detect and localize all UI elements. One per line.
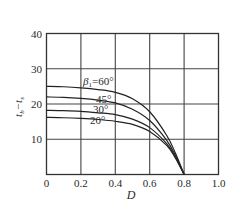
x-tick-label: 0.4 xyxy=(108,177,122,189)
x-tick-label: 1.0 xyxy=(212,177,226,189)
x-tick-label: 0 xyxy=(44,177,50,189)
x-tick-label: 0.2 xyxy=(74,177,88,189)
y-tick-labels: 10203040 xyxy=(31,28,43,146)
y-tick-label: 20 xyxy=(31,98,43,110)
y-axis-label: tb−ts xyxy=(12,97,26,117)
y-tick-label: 10 xyxy=(31,133,43,145)
svg-text:tb−ts: tb−ts xyxy=(12,97,26,117)
y-tick-label: 40 xyxy=(31,28,43,40)
x-axis-label: D xyxy=(126,188,136,202)
beta-value: =60° xyxy=(92,75,114,87)
x-tick-label: 0.8 xyxy=(177,177,191,189)
curve-label-60: β1=60° xyxy=(82,75,114,89)
curve-label-20: 20° xyxy=(90,114,105,126)
y-tick-label: 30 xyxy=(31,63,43,75)
y-label-sub-s: s xyxy=(18,97,26,100)
chart: 00.20.40.60.81.0 10203040 D tb−ts β1=60°… xyxy=(0,0,236,207)
grid-lines xyxy=(47,34,219,175)
x-tick-label: 0.6 xyxy=(143,177,157,189)
